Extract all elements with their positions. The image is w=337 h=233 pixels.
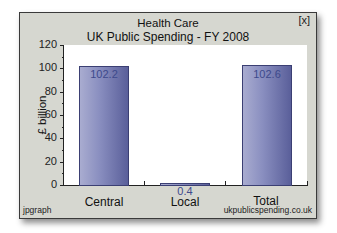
y-axis-label: £ billion (36, 85, 48, 145)
y-axis (63, 45, 64, 186)
chart-subtitle: UK Public Spending - FY 2008 (20, 30, 316, 44)
x-tick (225, 181, 226, 185)
y-tick-label: 100 (20, 61, 57, 73)
bar-total (242, 65, 292, 186)
x-tick (144, 181, 145, 185)
x-label-central: Central (74, 195, 134, 209)
chart-frame: Health Care UK Public Spending - FY 2008… (19, 12, 317, 219)
y-tick-label: 0 (20, 178, 57, 190)
bar-value-total: 102.6 (242, 68, 292, 80)
close-button[interactable]: [x] (298, 14, 310, 26)
y-tick-label: 120 (20, 38, 57, 50)
bar-value-central: 102.2 (79, 68, 129, 80)
chart-title: Health Care (20, 17, 316, 29)
jpgraph-credit: jpgraph (23, 205, 51, 215)
x-tick (307, 181, 308, 185)
y-tick-label: 20 (20, 155, 57, 167)
x-label-local: Local (155, 195, 215, 209)
source-link[interactable]: ukpublicspending.co.uk (224, 205, 312, 215)
bar-central (79, 66, 129, 186)
